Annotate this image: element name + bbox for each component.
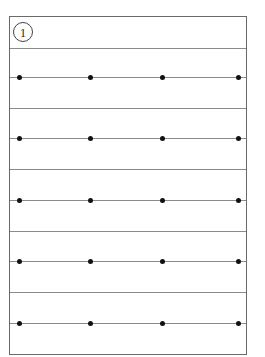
dot-icon [236, 198, 241, 203]
dot-row [10, 48, 246, 109]
dot-icon [88, 198, 93, 203]
dot-icon [17, 321, 22, 326]
dot-icon [88, 136, 93, 141]
guide-line [10, 261, 246, 262]
dot-row [10, 171, 246, 232]
dot-icon [160, 321, 165, 326]
scan-bleed-through [0, 0, 265, 14]
dot-icon [160, 259, 165, 264]
dot-icon [236, 136, 241, 141]
dot-icon [88, 75, 93, 80]
dot-icon [88, 259, 93, 264]
worksheet: 1 [9, 16, 247, 355]
dot-row [10, 232, 246, 293]
guide-line [10, 200, 246, 201]
circled-number: 1 [20, 26, 27, 39]
header-row: 1 [10, 17, 246, 49]
dot-row [10, 294, 246, 355]
dot-icon [88, 321, 93, 326]
dot-icon [160, 75, 165, 80]
guide-line [10, 77, 246, 78]
dot-icon [17, 259, 22, 264]
guide-line [10, 138, 246, 139]
guide-line [10, 323, 246, 324]
dot-icon [160, 136, 165, 141]
dot-row [10, 109, 246, 170]
dot-icon [17, 198, 22, 203]
dot-icon [236, 259, 241, 264]
circled-number-badge: 1 [13, 22, 33, 42]
dot-icon [17, 75, 22, 80]
dot-icon [236, 75, 241, 80]
dot-icon [236, 321, 241, 326]
dot-icon [17, 136, 22, 141]
dot-icon [160, 198, 165, 203]
